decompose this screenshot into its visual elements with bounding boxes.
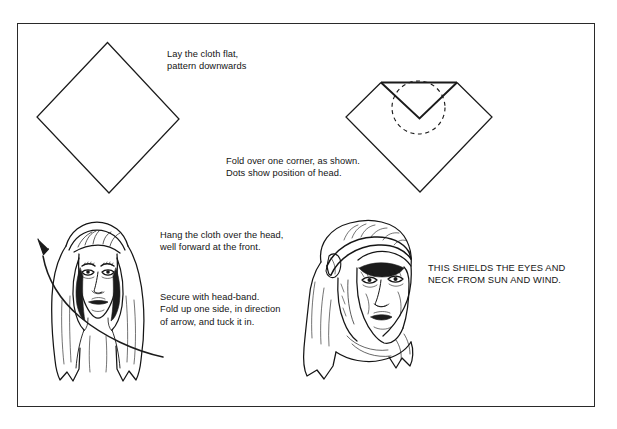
caption-step-3: Hang the cloth over the head, well forwa… — [160, 229, 283, 254]
caption-step-1: Lay the cloth flat, pattern downwards — [167, 48, 246, 73]
caption-step-2: Fold over one corner, as shown. Dots sho… — [226, 155, 360, 180]
figure-page: Lay the cloth flat, pattern downwards Fo… — [0, 0, 617, 429]
figure-border — [17, 23, 595, 407]
caption-step-5: THIS SHIELDS THE EYES AND NECK FROM SUN … — [428, 262, 565, 287]
caption-step-4: Secure with head-band. Fold up one side,… — [160, 291, 280, 328]
